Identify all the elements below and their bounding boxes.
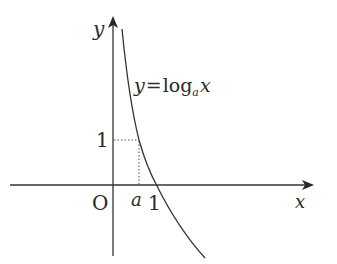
tick-x-one: 1 <box>148 191 161 215</box>
eq-argument: x <box>200 74 211 96</box>
svg-text:y=logax: y=logax <box>133 74 211 99</box>
tick-x-a: a <box>131 189 142 210</box>
eq-y: y <box>133 74 145 96</box>
origin-label: O <box>92 191 108 215</box>
x-axis-label: x <box>295 191 305 212</box>
eq-log: log <box>163 74 193 96</box>
tick-y-one: 1 <box>96 128 109 152</box>
eq-base: a <box>192 86 199 99</box>
log-curve <box>122 29 205 258</box>
y-axis-label: y <box>92 17 105 41</box>
log-graph-diagram: y x O 1 a 1 y=logax <box>0 0 337 264</box>
eq-equals: = <box>146 74 162 96</box>
curve-equation-label: y=logax <box>133 74 211 99</box>
